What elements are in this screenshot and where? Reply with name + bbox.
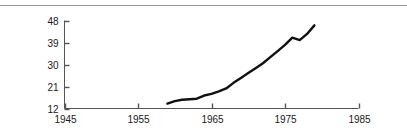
y-tick-marks [65, 22, 70, 110]
x-tick-label: 1985 [340, 114, 380, 125]
y-tick-label: 48 [37, 16, 59, 27]
axes-group [65, 21, 359, 109]
chart-figure: 1221303948 19451955196519751985 [0, 0, 407, 134]
y-tick-label: 39 [37, 38, 59, 49]
x-tick-label: 1945 [46, 114, 86, 125]
data-line-series-1 [167, 25, 314, 103]
x-tick-label: 1955 [119, 114, 159, 125]
y-tick-label: 30 [37, 60, 59, 71]
x-tick-marks [66, 104, 360, 109]
x-tick-label: 1975 [266, 114, 306, 125]
data-series-group [167, 25, 314, 103]
x-tick-label: 1965 [193, 114, 233, 125]
y-tick-label: 21 [37, 82, 59, 93]
